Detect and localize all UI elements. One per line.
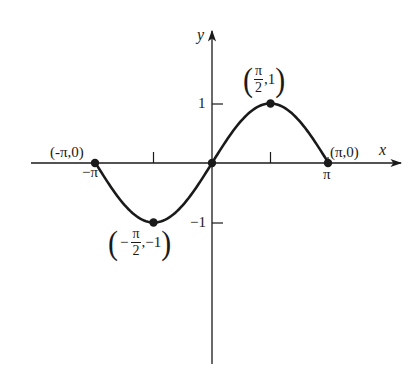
annotation-max-value: ,1 [264,72,275,87]
annotation-pi: (π,0) [330,145,359,160]
fraction: π 2 [254,64,263,95]
paren-close: ) [161,226,171,259]
paren-open: ( [243,63,253,96]
y-tick-label-1: 1 [198,96,206,111]
point-min [149,218,157,226]
fraction-numerator: π [131,227,140,243]
x-tick-label-pi: π [323,167,331,182]
x-tick-label-neg-pi: −π [82,165,98,180]
annotation-min-value: ,−1 [142,235,162,250]
fraction-denominator: 2 [133,243,140,258]
minus-sign: − [120,235,128,250]
point-origin [208,159,216,167]
paren-open: ( [108,226,118,259]
fraction: π 2 [131,227,140,258]
annotation-min: ( − π 2 ,−1 ) [108,227,171,258]
annotation-max: ( π 2 ,1 ) [243,64,285,95]
fraction-denominator: 2 [255,80,262,95]
sine-graph [0,0,413,379]
point-max [266,99,274,107]
y-axis-label: y [197,27,204,43]
paren-close: ) [275,63,285,96]
x-axis-label: x [379,142,386,158]
annotation-neg-pi: (-π,0) [50,145,84,160]
fraction-numerator: π [254,64,263,80]
y-tick-label-neg1: −1 [190,215,206,230]
